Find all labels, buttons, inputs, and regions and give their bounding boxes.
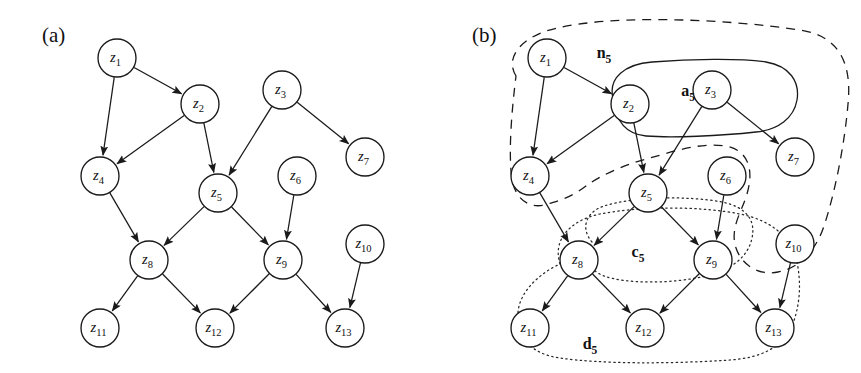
- edge-z1-to-z4-b: [533, 77, 544, 155]
- node-z1-b[interactable]: z1: [528, 39, 566, 77]
- set-label-d5: d5: [583, 335, 598, 356]
- edge-z3-to-z7-a: [297, 102, 348, 144]
- node-z11-b[interactable]: z11: [511, 309, 549, 347]
- node-z2-a[interactable]: z2: [181, 85, 219, 123]
- edge-z9-to-z13-a: [296, 274, 331, 312]
- edge-z10-to-z13-a: [350, 263, 361, 308]
- set-label-n5: n5: [597, 44, 612, 65]
- node-z7-b[interactable]: z7: [776, 138, 814, 176]
- node-z9-b[interactable]: z9: [694, 241, 732, 279]
- edge-z4-to-z8-b: [540, 193, 569, 242]
- graph-panel-a: z1z2z3z4z5z6z7z8z9z10z11z12z13: [81, 39, 384, 347]
- node-z12-b[interactable]: z12: [626, 309, 664, 347]
- edge-z5-to-z9-b: [662, 207, 699, 245]
- edge-z3-to-z5-a: [229, 107, 272, 176]
- edge-z4-to-z8-a: [110, 193, 139, 242]
- graph-figure-canvas: (a) (b) z1z2z3z4z5z6z7z8z9z10z11z12z13 z…: [0, 0, 861, 373]
- set-label-c5: c5: [632, 243, 645, 264]
- edge-z8-to-z11-a: [112, 276, 137, 311]
- graph-panel-b: z1z2z3z4z5z6z7z8z9z10z11z12z13: [511, 39, 814, 347]
- edge-z1-to-z2-b: [564, 67, 612, 93]
- node-z8-a[interactable]: z8: [130, 241, 168, 279]
- panel-label-b: (b): [472, 23, 497, 47]
- node-z4-b[interactable]: z4: [511, 157, 549, 195]
- figure-root: (a) (b) z1z2z3z4z5z6z7z8z9z10z11z12z13 z…: [0, 0, 861, 373]
- edge-z5-to-z8-b: [594, 207, 634, 246]
- node-z2-b[interactable]: z2: [611, 85, 649, 123]
- edge-z3-to-z5-b: [659, 107, 702, 176]
- node-z3-b[interactable]: z3: [693, 71, 731, 109]
- edge-z2-to-z5-a: [204, 123, 214, 172]
- edge-z1-to-z4-a: [103, 77, 114, 155]
- edge-z1-to-z2-a: [134, 67, 182, 93]
- node-z7-a[interactable]: z7: [346, 138, 384, 176]
- edge-z5-to-z9-a: [232, 207, 269, 245]
- node-z1-a[interactable]: z1: [98, 39, 136, 77]
- node-z13-b[interactable]: z13: [756, 309, 794, 347]
- node-z6-a[interactable]: z6: [278, 157, 316, 195]
- edge-z6-to-z9-a: [286, 195, 293, 239]
- edge-z8-to-z11-b: [542, 276, 567, 311]
- edge-z9-to-z12-a: [230, 274, 269, 313]
- node-z12-a[interactable]: z12: [196, 309, 234, 347]
- edge-z8-to-z12-a: [163, 274, 201, 313]
- node-z5-a[interactable]: z5: [199, 174, 237, 212]
- edge-z8-to-z12-b: [593, 274, 631, 313]
- edge-z9-to-z12-b: [660, 274, 699, 313]
- node-z3-a[interactable]: z3: [263, 71, 301, 109]
- edge-z5-to-z8-a: [164, 207, 204, 246]
- node-z9-a[interactable]: z9: [264, 241, 302, 279]
- node-z6-b[interactable]: z6: [708, 157, 746, 195]
- node-z8-b[interactable]: z8: [560, 241, 598, 279]
- node-z10-b[interactable]: z10: [776, 225, 814, 263]
- node-z10-a[interactable]: z10: [346, 225, 384, 263]
- edge-z2-to-z4-a: [117, 115, 184, 163]
- edge-z2-to-z5-b: [634, 123, 644, 172]
- node-z5-b[interactable]: z5: [629, 174, 667, 212]
- node-z4-a[interactable]: z4: [81, 157, 119, 195]
- edge-z2-to-z4-b: [547, 115, 614, 163]
- node-z13-a[interactable]: z13: [326, 309, 364, 347]
- panel-label-a: (a): [42, 23, 65, 47]
- edge-z10-to-z13-b: [780, 263, 791, 308]
- edge-z9-to-z13-b: [726, 274, 761, 312]
- node-z11-a[interactable]: z11: [81, 309, 119, 347]
- edge-z3-to-z7-b: [727, 102, 778, 144]
